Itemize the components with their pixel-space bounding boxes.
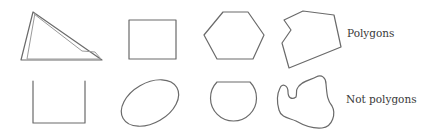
hexagon [204, 12, 264, 59]
circle-segment [211, 82, 257, 121]
not-polygons-label: Not polygons [346, 93, 417, 105]
open-u-shape [33, 81, 85, 123]
irregular-concave-polygon [282, 11, 341, 68]
closed-curve-blob [278, 76, 334, 128]
rectangle [129, 20, 176, 59]
sketchy-triangle [21, 12, 102, 60]
shapes-figure [0, 0, 427, 138]
ellipse [113, 70, 187, 136]
polygons-diagram: Polygons Not polygons [0, 0, 427, 138]
polygons-label: Polygons [347, 27, 394, 39]
